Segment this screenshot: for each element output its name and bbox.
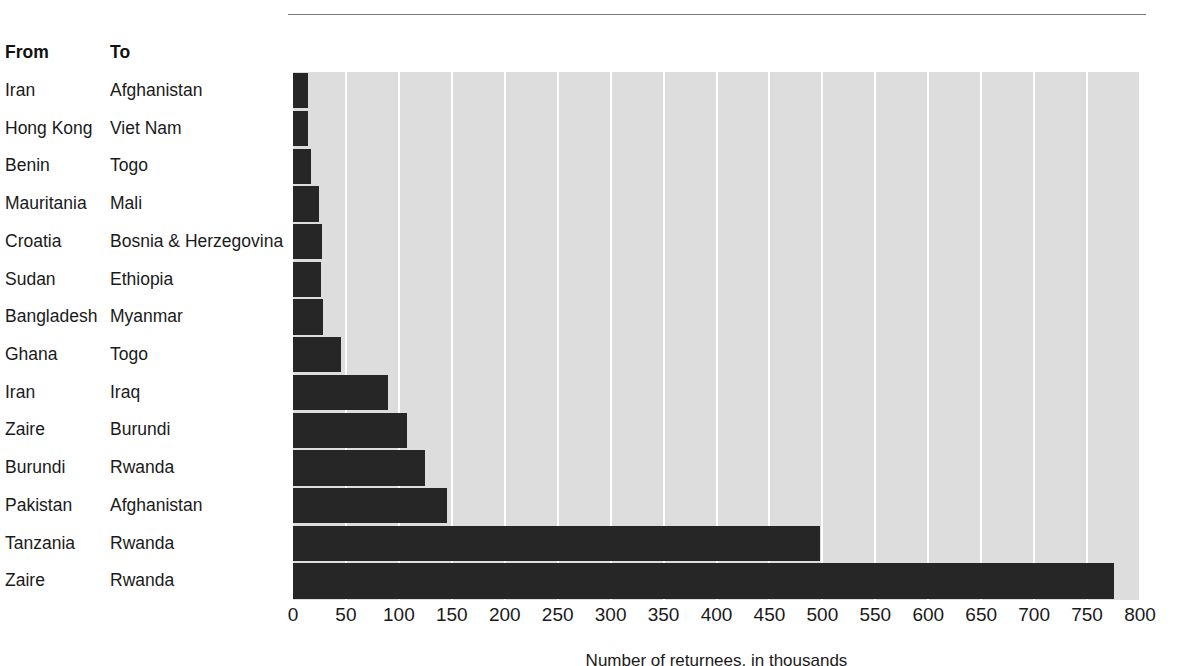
x-axis-title: Number of returnees, in thousands bbox=[293, 651, 1140, 666]
row-label: BurundiRwanda bbox=[0, 449, 292, 487]
x-tick-label: 50 bbox=[335, 604, 356, 626]
bar-row bbox=[293, 562, 1140, 600]
row-label-from: Iran bbox=[5, 72, 35, 110]
bar-series bbox=[293, 72, 1140, 600]
x-tick-label: 700 bbox=[1018, 604, 1050, 626]
row-label-columns: From To IranAfghanistanHong KongViet Nam… bbox=[0, 42, 292, 602]
row-label-to: Rwanda bbox=[110, 525, 174, 563]
bar-row bbox=[293, 449, 1140, 487]
row-label-from: Burundi bbox=[5, 449, 65, 487]
bar-row bbox=[293, 223, 1140, 261]
x-tick-label: 100 bbox=[383, 604, 415, 626]
bar bbox=[293, 450, 425, 485]
bar-row bbox=[293, 411, 1140, 449]
x-tick-label: 500 bbox=[807, 604, 839, 626]
row-label-from: Hong Kong bbox=[5, 110, 93, 148]
row-label: TanzaniaRwanda bbox=[0, 525, 292, 563]
bar bbox=[293, 149, 311, 184]
row-label-to: Togo bbox=[110, 147, 148, 185]
row-label-to: Ethiopia bbox=[110, 261, 173, 299]
row-label-to: Mali bbox=[110, 185, 142, 223]
bar bbox=[293, 488, 447, 523]
x-tick-label: 550 bbox=[859, 604, 891, 626]
x-tick-label: 250 bbox=[542, 604, 574, 626]
row-label-from: Pakistan bbox=[5, 487, 72, 525]
row-label-from: Zaire bbox=[5, 562, 45, 600]
bar-row bbox=[293, 487, 1140, 525]
row-label-to: Iraq bbox=[110, 374, 140, 412]
bar bbox=[293, 413, 407, 448]
chart-plot-area bbox=[293, 72, 1140, 600]
row-label: MauritaniaMali bbox=[0, 185, 292, 223]
row-label-to: Afghanistan bbox=[110, 72, 202, 110]
row-label-from: Benin bbox=[5, 147, 50, 185]
row-label-from: Iran bbox=[5, 374, 35, 412]
row-label-to: Rwanda bbox=[110, 562, 174, 600]
row-label: Hong KongViet Nam bbox=[0, 110, 292, 148]
bar bbox=[293, 299, 323, 334]
bar-row bbox=[293, 110, 1140, 148]
row-label-from: Tanzania bbox=[5, 525, 75, 563]
row-label: GhanaTogo bbox=[0, 336, 292, 374]
row-label-from: Ghana bbox=[5, 336, 58, 374]
x-tick-label: 0 bbox=[288, 604, 299, 626]
x-tick-label: 600 bbox=[912, 604, 944, 626]
bar-row bbox=[293, 147, 1140, 185]
x-tick-label: 300 bbox=[595, 604, 627, 626]
x-tick-label: 400 bbox=[701, 604, 733, 626]
row-label-from: Croatia bbox=[5, 223, 61, 261]
bar bbox=[293, 526, 820, 561]
bar bbox=[293, 563, 1114, 598]
x-tick-label: 150 bbox=[436, 604, 468, 626]
row-label: BeninTogo bbox=[0, 147, 292, 185]
row-label: IranAfghanistan bbox=[0, 72, 292, 110]
x-tick-label: 200 bbox=[489, 604, 521, 626]
column-header-from: From bbox=[5, 42, 49, 63]
row-label-to: Viet Nam bbox=[110, 110, 182, 148]
bar bbox=[293, 111, 308, 146]
row-label: IranIraq bbox=[0, 374, 292, 412]
x-tick-label: 450 bbox=[754, 604, 786, 626]
bar bbox=[293, 186, 319, 221]
bar-row bbox=[293, 261, 1140, 299]
row-label: CroatiaBosnia & Herzegovina bbox=[0, 223, 292, 261]
bar-row bbox=[293, 374, 1140, 412]
bar bbox=[293, 73, 308, 108]
x-tick-label: 350 bbox=[648, 604, 680, 626]
bar bbox=[293, 337, 341, 372]
row-label-from: Zaire bbox=[5, 411, 45, 449]
bar-row bbox=[293, 336, 1140, 374]
row-label: PakistanAfghanistan bbox=[0, 487, 292, 525]
x-axis-tick-labels: 0501001502002503003504004505005506006507… bbox=[293, 604, 1140, 630]
row-label-to: Myanmar bbox=[110, 298, 183, 336]
bar-row bbox=[293, 525, 1140, 563]
column-headers: From To bbox=[0, 42, 292, 72]
row-label: ZaireBurundi bbox=[0, 411, 292, 449]
row-label-to: Rwanda bbox=[110, 449, 174, 487]
row-label-from: Sudan bbox=[5, 261, 56, 299]
row-label: ZaireRwanda bbox=[0, 562, 292, 600]
row-label-to: Bosnia & Herzegovina bbox=[110, 223, 283, 261]
x-tick-label: 750 bbox=[1071, 604, 1103, 626]
top-horizontal-rule bbox=[288, 14, 1146, 15]
row-label-to: Togo bbox=[110, 336, 148, 374]
row-label-to: Burundi bbox=[110, 411, 170, 449]
bar-row bbox=[293, 185, 1140, 223]
row-label: BangladeshMyanmar bbox=[0, 298, 292, 336]
row-label-from: Bangladesh bbox=[5, 298, 97, 336]
column-header-to: To bbox=[110, 42, 130, 63]
x-tick-label: 650 bbox=[965, 604, 997, 626]
bar bbox=[293, 262, 321, 297]
bar-row bbox=[293, 72, 1140, 110]
row-label: SudanEthiopia bbox=[0, 261, 292, 299]
bar-row bbox=[293, 298, 1140, 336]
row-label-from: Mauritania bbox=[5, 185, 87, 223]
bar bbox=[293, 224, 322, 259]
row-label-to: Afghanistan bbox=[110, 487, 202, 525]
bar bbox=[293, 375, 388, 410]
x-tick-label: 800 bbox=[1124, 604, 1156, 626]
